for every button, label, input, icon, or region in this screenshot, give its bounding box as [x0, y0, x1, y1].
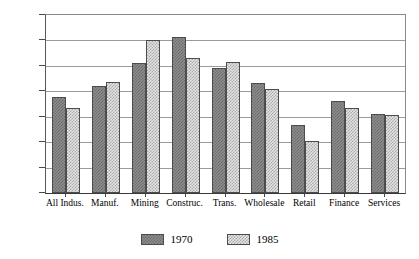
- bar: [212, 68, 226, 193]
- bar: [265, 89, 279, 193]
- bar: [186, 58, 200, 193]
- bar-group: [92, 15, 120, 193]
- legend-label: 1970: [171, 234, 193, 245]
- bar-group: [172, 15, 200, 193]
- bar-chart: 050100150200250300$350 All Indus.Manuf.M…: [0, 0, 419, 259]
- bar: [251, 83, 265, 193]
- bar: [132, 63, 146, 193]
- plot-area: [45, 14, 406, 194]
- bar: [52, 97, 66, 193]
- bar-group: [291, 15, 319, 193]
- bar-group: [212, 15, 240, 193]
- light-checkered-swatch: [227, 234, 250, 245]
- legend-entry: 1970: [141, 234, 193, 245]
- bar: [331, 101, 345, 193]
- chart-legend: 19701985: [0, 234, 419, 245]
- bar-group: [371, 15, 399, 193]
- bar: [305, 141, 319, 193]
- bar: [291, 125, 305, 193]
- bar-group: [52, 15, 80, 193]
- bar-group: [331, 15, 359, 193]
- bar-group: [251, 15, 279, 193]
- bar: [172, 37, 186, 193]
- bar: [345, 108, 359, 193]
- x-tick-label: Services: [344, 199, 419, 209]
- legend-label: 1985: [257, 234, 279, 245]
- bar: [385, 115, 399, 193]
- bar: [371, 114, 385, 193]
- bar: [106, 82, 120, 193]
- dark-checkered-swatch: [141, 234, 164, 245]
- bar: [146, 40, 160, 193]
- bar: [66, 108, 80, 193]
- legend-entry: 1985: [227, 234, 279, 245]
- bar: [226, 62, 240, 193]
- bar: [92, 86, 106, 193]
- bar-group: [132, 15, 160, 193]
